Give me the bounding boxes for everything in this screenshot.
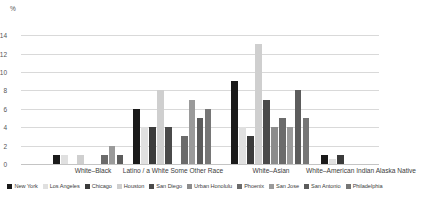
bars-layer — [21, 26, 379, 164]
legend-label: Chicago — [92, 183, 112, 189]
legend-item[interactable]: San Diego — [149, 183, 182, 189]
legend-label: San Antonio — [311, 183, 341, 189]
bar-group — [231, 26, 311, 164]
legend-swatch-icon — [304, 184, 309, 189]
bar — [77, 155, 84, 164]
bar — [117, 155, 124, 164]
legend-item[interactable]: Houston — [117, 183, 145, 189]
legend-label: Los Angeles — [50, 183, 80, 189]
legend-item[interactable]: Philadelphia — [346, 183, 383, 189]
bar — [197, 118, 204, 164]
legend-swatch-icon — [187, 184, 192, 189]
legend: New YorkLos AngelesChicagoHoustonSan Die… — [0, 183, 390, 189]
legend-swatch-icon — [346, 184, 351, 189]
category-label: White–American Indian Alaska Native — [301, 166, 421, 176]
bar — [133, 109, 140, 164]
bar — [247, 136, 254, 164]
bar — [303, 118, 310, 164]
bar — [181, 136, 188, 164]
bar — [101, 155, 108, 164]
bar — [141, 127, 148, 164]
plot-area: 02468101214 — [21, 26, 379, 164]
legend-label: New York — [14, 183, 37, 189]
bar — [205, 109, 212, 164]
legend-item[interactable]: Urban Honolulu — [187, 183, 232, 189]
legend-item[interactable]: Phoenix — [237, 183, 264, 189]
y-axis-tick-label: 6 — [0, 105, 7, 112]
bar-group — [133, 26, 213, 164]
bar — [109, 146, 116, 164]
legend-label: Phoenix — [244, 183, 264, 189]
bar — [239, 127, 246, 164]
bar — [61, 155, 68, 164]
legend-label: Philadelphia — [353, 183, 383, 189]
legend-swatch-icon — [7, 184, 12, 189]
y-axis-tick-label: 8 — [0, 87, 7, 94]
y-axis-tick-label: 10 — [0, 69, 7, 76]
legend-item[interactable]: San Antonio — [304, 183, 341, 189]
y-axis-tick-label: 2 — [0, 142, 7, 149]
legend-swatch-icon — [269, 184, 274, 189]
y-axis-unit-label: % — [10, 5, 16, 12]
legend-item[interactable]: New York — [7, 183, 37, 189]
y-axis-tick-label: 4 — [0, 124, 7, 131]
bar — [337, 155, 344, 164]
bar — [271, 127, 278, 164]
bar — [295, 90, 302, 164]
legend-item[interactable]: Los Angeles — [43, 183, 80, 189]
y-axis-tick-label: 12 — [0, 50, 7, 57]
bar — [321, 155, 328, 164]
bar — [279, 118, 286, 164]
legend-swatch-icon — [149, 184, 154, 189]
bar — [287, 127, 294, 164]
bar — [157, 90, 164, 164]
y-axis-tick-label: 0 — [0, 161, 7, 168]
y-axis-tick-label: 14 — [0, 32, 7, 39]
bar — [329, 159, 336, 164]
legend-item[interactable]: Chicago — [85, 183, 112, 189]
legend-label: San Jose — [276, 183, 299, 189]
legend-label: Urban Honolulu — [194, 183, 232, 189]
bar — [53, 155, 60, 164]
bar-group — [53, 26, 133, 164]
bar — [255, 44, 262, 164]
legend-swatch-icon — [117, 184, 122, 189]
bar — [263, 100, 270, 164]
legend-label: San Diego — [156, 183, 182, 189]
bar — [165, 127, 172, 164]
category-axis: White–BlackLatino / a White Some Other R… — [21, 166, 379, 178]
legend-swatch-icon — [85, 184, 90, 189]
bar — [189, 100, 196, 164]
legend-swatch-icon — [237, 184, 242, 189]
bar-group — [321, 26, 401, 164]
legend-label: Houston — [124, 183, 145, 189]
legend-swatch-icon — [43, 184, 48, 189]
gridline — [21, 164, 379, 165]
legend-item[interactable]: San Jose — [269, 183, 299, 189]
bar — [231, 81, 238, 164]
bar — [149, 127, 156, 164]
